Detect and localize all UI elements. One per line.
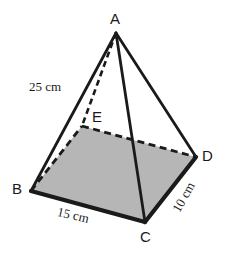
vertex-label-b: B (12, 181, 22, 196)
vertex-label-d: D (202, 148, 213, 163)
vertex-label-a: A (110, 11, 120, 26)
vertex-label-c: C (140, 229, 151, 244)
pyramid-figure: A B C D E 25 cm 15 cm 10 cm (0, 0, 226, 253)
measurement-label-slant-edge-ab: 25 cm (29, 80, 61, 93)
pyramid-drawing (0, 0, 226, 253)
vertex-label-e: E (92, 109, 102, 124)
